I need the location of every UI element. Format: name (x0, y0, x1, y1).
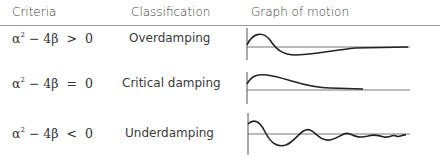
underdamped-graph (248, 113, 410, 155)
critically-damped-graph (247, 72, 410, 104)
overdamped-graph (247, 28, 410, 60)
graphs (0, 0, 440, 158)
